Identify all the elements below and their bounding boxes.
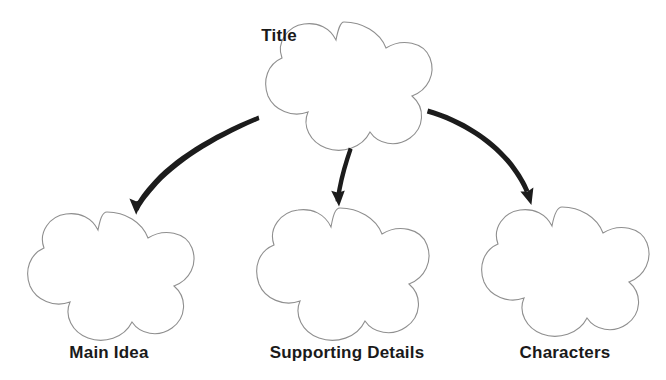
arrowhead-icon — [331, 191, 345, 207]
node-label-supporting-details: Supporting Details — [270, 344, 425, 362]
diagram-canvas — [0, 0, 666, 380]
arrow-shaft — [134, 116, 260, 211]
node-label-characters: Characters — [520, 344, 611, 362]
arrowhead-icon — [129, 199, 142, 215]
arrow-title-to-main-idea[interactable] — [129, 116, 259, 215]
story-map-diagram: Title Main Idea Supporting Details Chara… — [0, 0, 666, 380]
cloud-shape-characters[interactable] — [482, 207, 649, 336]
node-label-main-idea: Main Idea — [69, 344, 148, 362]
arrow-title-to-supporting-details[interactable] — [331, 148, 352, 207]
arrow-shaft — [427, 108, 530, 192]
cloud-shape-supporting-details[interactable] — [257, 208, 429, 340]
arrow-title-to-characters[interactable] — [427, 108, 534, 205]
node-label-title: Title — [261, 27, 297, 45]
cloud-shape-main-idea[interactable] — [28, 212, 194, 340]
cloud-shapes-group — [28, 22, 649, 340]
